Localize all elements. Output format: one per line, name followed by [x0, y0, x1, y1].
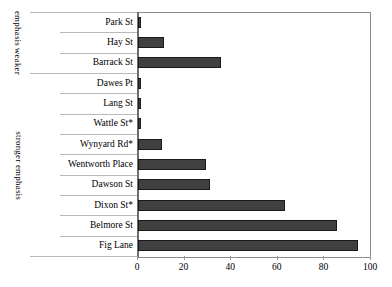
bar	[138, 139, 162, 150]
category-label: Fig Lane	[44, 236, 137, 256]
value-axis-tick-label: 60	[272, 261, 282, 273]
category-label: Dawson St	[44, 175, 137, 195]
value-axis-tickmark	[184, 256, 185, 260]
value-axis-tickmark	[137, 256, 138, 260]
category-label: Wentworth Place	[44, 154, 137, 174]
value-axis-tickmark	[277, 256, 278, 260]
bar	[138, 17, 141, 28]
category-label: Barrack St	[44, 53, 137, 73]
bar	[138, 179, 210, 190]
bar-row	[138, 195, 371, 215]
value-axis-tick-label: 100	[363, 261, 377, 273]
bar-row	[138, 32, 371, 52]
value-axis-tick-label: 20	[179, 261, 189, 273]
bar-row	[138, 134, 371, 154]
value-axis-tick-label: 40	[225, 261, 235, 273]
category-label: Park St	[44, 12, 137, 32]
value-axis-tickmark	[230, 256, 231, 260]
bar	[138, 57, 221, 68]
bar-row	[138, 114, 371, 134]
bar-row	[138, 215, 371, 235]
category-label: Belmore St	[44, 215, 137, 235]
category-axis: Park StHay StBarrack StDawes PtLang StWa…	[44, 12, 137, 256]
bar-row	[138, 175, 371, 195]
bar	[138, 240, 358, 251]
bar-row	[138, 93, 371, 113]
bar-row	[138, 53, 371, 73]
value-axis-tickmark	[323, 256, 324, 260]
bar-chart: weaker emphasis stronger emphasis Park S…	[0, 0, 392, 287]
value-axis-tick-label: 80	[319, 261, 329, 273]
bar	[138, 78, 141, 89]
bar	[138, 37, 164, 48]
bar-row	[138, 236, 371, 256]
bar	[138, 159, 206, 170]
value-axis-tick-labels: 020406080100	[137, 261, 370, 277]
category-label: Hay St	[44, 32, 137, 52]
bar	[138, 118, 141, 129]
group-label-weaker-emphasis: weaker emphasis	[6, 12, 30, 74]
category-label: Wattle St*	[44, 114, 137, 134]
group-label-stronger-emphasis: stronger emphasis	[12, 76, 26, 256]
category-label: Dawes Pt	[44, 73, 137, 93]
bar	[138, 220, 337, 231]
category-label: Dixon St*	[44, 195, 137, 215]
category-label: Wynyard Rd*	[44, 134, 137, 154]
bar	[138, 200, 285, 211]
bar-row	[138, 12, 371, 32]
bracket-tick-bottom	[30, 256, 137, 257]
bar-row	[138, 154, 371, 174]
group-label-stronger-line-1: stronger emphasis	[14, 132, 24, 201]
bar-series	[138, 12, 371, 256]
group-label-weaker-line-1: weaker	[13, 47, 23, 74]
category-label: Lang St	[44, 93, 137, 113]
value-axis-tickmark	[370, 256, 371, 260]
bar	[138, 98, 141, 109]
group-label-weaker-line-2: emphasis	[13, 11, 23, 46]
bar-row	[138, 73, 371, 93]
value-axis-tick-label: 0	[135, 261, 140, 273]
